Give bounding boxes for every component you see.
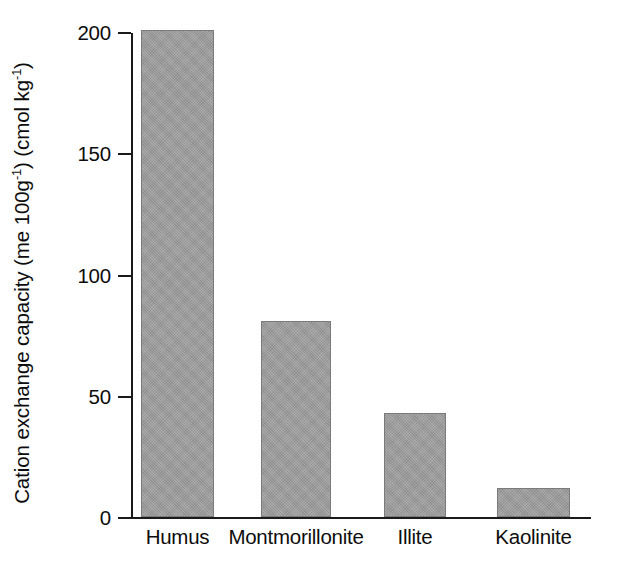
y-axis-title-mid: ) (cmol kg bbox=[10, 80, 33, 169]
y-axis-tick-label: 200 bbox=[77, 21, 111, 45]
y-axis-tick-label: 50 bbox=[89, 385, 111, 409]
bar-kaolinite[interactable] bbox=[497, 488, 570, 517]
y-axis-line bbox=[131, 33, 133, 518]
y-axis-tick-label: 150 bbox=[77, 142, 111, 166]
y-axis-tick: 150 bbox=[118, 153, 131, 155]
y-axis-tick: 50 bbox=[118, 396, 131, 398]
y-axis-title: Cation exchange capacity (me 100g-1) (cm… bbox=[0, 0, 44, 566]
y-axis-title-text: Cation exchange capacity (me 100g-1) (cm… bbox=[10, 62, 34, 504]
bar-humus[interactable] bbox=[141, 30, 214, 517]
x-axis-label-humus: Humus bbox=[146, 525, 210, 549]
y-axis-tick-label: 0 bbox=[100, 506, 111, 530]
y-axis-title-sup-2: -1 bbox=[9, 69, 24, 80]
y-axis-tick-label: 100 bbox=[77, 264, 111, 288]
x-axis-label-illite: Illite bbox=[398, 525, 433, 549]
x-axis-label-montmorillonite: Montmorillonite bbox=[228, 525, 363, 549]
bar-chart-figure: Cation exchange capacity (me 100g-1) (cm… bbox=[0, 0, 629, 566]
x-axis-line bbox=[129, 517, 591, 519]
y-axis-tick: 0 bbox=[118, 517, 131, 519]
y-axis-title-sup-1: -1 bbox=[9, 169, 24, 180]
bar-montmorillonite[interactable] bbox=[261, 321, 331, 517]
y-axis-tick: 100 bbox=[118, 275, 131, 277]
x-axis-label-kaolinite: Kaolinite bbox=[495, 525, 571, 549]
plot-area: 050100150200 HumusMontmorilloniteIlliteK… bbox=[131, 20, 601, 520]
y-axis-title-end: ) bbox=[10, 62, 33, 69]
bar-illite[interactable] bbox=[384, 413, 446, 517]
y-axis-title-main: Cation exchange capacity (me 100g bbox=[10, 180, 33, 504]
y-axis-tick: 200 bbox=[118, 32, 131, 34]
